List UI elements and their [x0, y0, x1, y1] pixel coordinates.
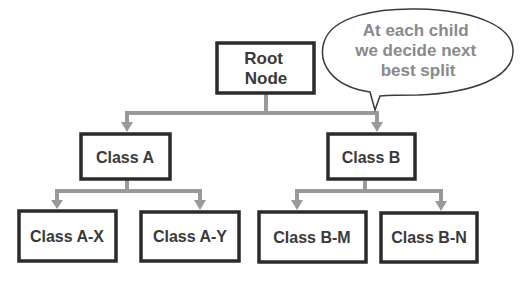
node-label: Class A: [96, 149, 155, 166]
node-label: Root Node: [244, 49, 287, 88]
arrowhead-icon: [51, 200, 63, 209]
root-line-1: Root: [244, 49, 283, 68]
node-class-a-y: Class A-Y: [141, 212, 239, 261]
arrowhead-icon: [291, 200, 303, 210]
decision-tree-diagram: At each child we decide next best split …: [0, 0, 521, 283]
node-label: Class A-Y: [153, 228, 227, 245]
node-class-b-n: Class B-N: [381, 213, 477, 262]
root-line-2: Node: [245, 69, 288, 88]
callout-line-3: best split: [381, 61, 456, 80]
node-class-a: Class A: [81, 134, 170, 179]
node-root: Root Node: [217, 43, 314, 93]
callout-line-2: we decide next: [354, 41, 476, 60]
node-class-a-x: Class A-X: [19, 211, 116, 261]
callout-line-1: At each child: [363, 21, 469, 40]
node-label: Class A-X: [30, 228, 104, 245]
callout-bubble: At each child we decide next best split: [323, 9, 513, 110]
arrowhead-icon: [121, 122, 133, 132]
node-class-b: Class B: [328, 134, 415, 179]
arrowhead-icon: [435, 201, 447, 211]
arrowhead-icon: [194, 200, 206, 210]
arrowhead-icon: [371, 122, 383, 132]
node-label: Class B-N: [391, 229, 467, 246]
node-class-b-m: Class B-M: [259, 212, 366, 262]
node-label: Class B-M: [273, 229, 350, 246]
node-label: Class B: [342, 149, 401, 166]
